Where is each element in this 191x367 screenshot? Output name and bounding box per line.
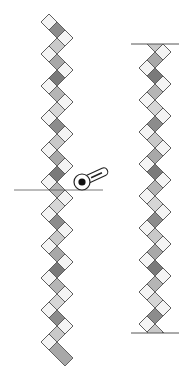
white-square xyxy=(139,28,155,44)
white-square xyxy=(155,332,171,348)
cutter-hub xyxy=(78,178,85,185)
rotary-cutter-icon xyxy=(74,167,109,190)
white-square xyxy=(155,332,171,348)
gray-rectangle xyxy=(139,340,163,364)
right-braid-strip-trimmed xyxy=(139,28,171,364)
braid-diagram xyxy=(0,0,191,367)
white-square xyxy=(139,28,155,44)
